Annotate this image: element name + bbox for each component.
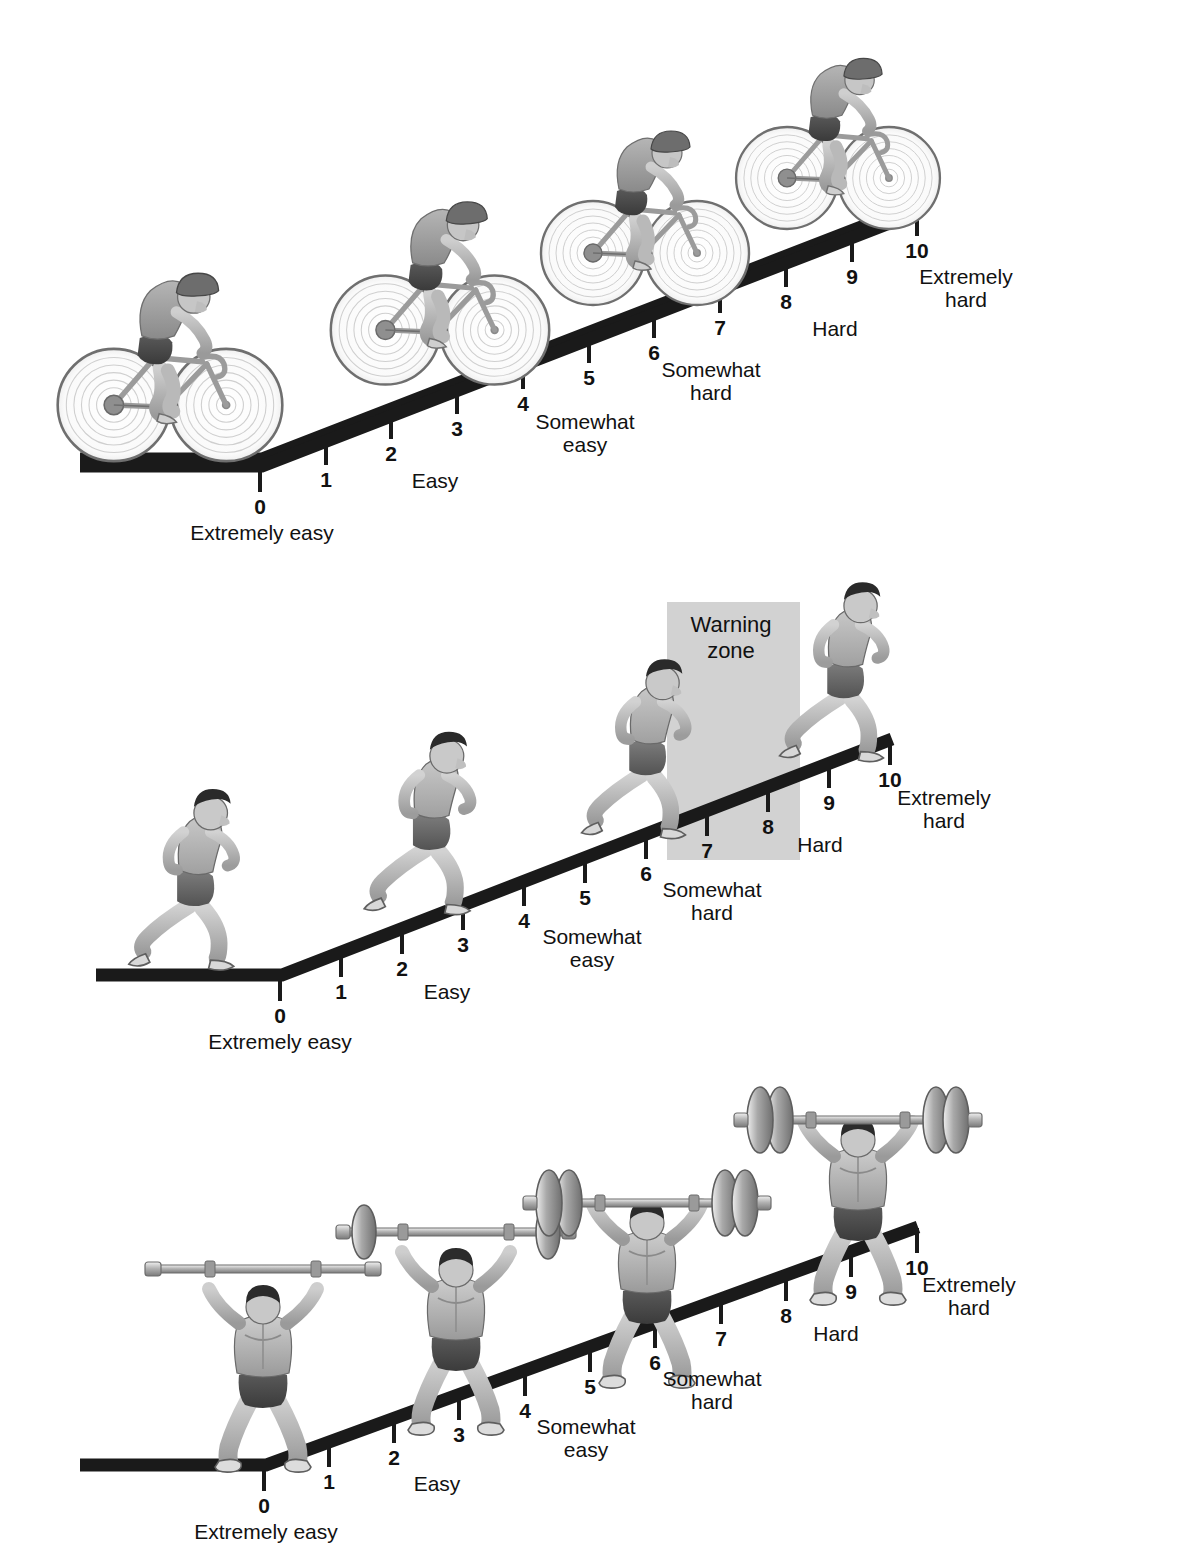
runner-figure-3 bbox=[581, 659, 685, 839]
anchor-somewhat-easy: Somewhat easy bbox=[542, 925, 641, 971]
tick-number-6: 6 bbox=[640, 863, 652, 884]
cyclist-figure-3 bbox=[541, 131, 749, 305]
tick-number-9: 9 bbox=[846, 266, 858, 287]
tick-number-8: 8 bbox=[780, 291, 792, 312]
anchor-somewhat-hard: Somewhat hard bbox=[662, 1367, 761, 1413]
tick-number-5: 5 bbox=[583, 367, 595, 388]
tick-number-6: 6 bbox=[648, 342, 660, 363]
tick-number-3: 3 bbox=[457, 934, 469, 955]
tick-number-0: 0 bbox=[258, 1495, 270, 1516]
tick-number-9: 9 bbox=[823, 792, 835, 813]
tick-number-0: 0 bbox=[254, 496, 266, 517]
anchor-extremely-hard: Extremely hard bbox=[897, 786, 990, 832]
anchor-easy: Easy bbox=[424, 980, 471, 1003]
tick-number-10: 10 bbox=[905, 240, 928, 261]
tick-number-7: 7 bbox=[715, 1328, 727, 1349]
tick-number-6: 6 bbox=[649, 1352, 661, 1373]
tick-number-8: 8 bbox=[762, 816, 774, 837]
anchor-extremely-easy: Extremely easy bbox=[194, 1520, 338, 1543]
tick-number-7: 7 bbox=[701, 840, 713, 861]
anchor-hard: Hard bbox=[812, 317, 858, 340]
tick-number-9: 9 bbox=[845, 1281, 857, 1302]
tick-number-4: 4 bbox=[518, 910, 530, 931]
scale-panel-resistance: 0 1 2 3 4 5 6 7 8 9 10 Extremely easy Ea… bbox=[0, 1080, 1193, 1540]
anchor-easy: Easy bbox=[412, 469, 459, 492]
cycling-scale-graphic bbox=[0, 0, 1193, 560]
anchor-hard: Hard bbox=[813, 1322, 859, 1345]
tick-number-1: 1 bbox=[320, 469, 332, 490]
tick-number-1: 1 bbox=[323, 1471, 335, 1492]
tick-number-2: 2 bbox=[396, 958, 408, 979]
tick-number-3: 3 bbox=[453, 1424, 465, 1445]
runner-figure-4 bbox=[779, 582, 883, 762]
cyclist-figure-4 bbox=[736, 58, 940, 229]
tick-number-8: 8 bbox=[780, 1305, 792, 1326]
tick-number-5: 5 bbox=[579, 887, 591, 908]
runner-figure-2 bbox=[364, 732, 470, 915]
tick-number-7: 7 bbox=[714, 317, 726, 338]
cyclist-figure-2 bbox=[331, 202, 549, 385]
anchor-somewhat-easy: Somewhat easy bbox=[536, 1415, 635, 1461]
anchor-extremely-easy: Extremely easy bbox=[208, 1030, 352, 1053]
scale-panel-running: Warning zone bbox=[0, 560, 1193, 1080]
scale-panel-cycling: 0 1 2 3 4 5 6 7 8 9 10 Extremely easy Ea… bbox=[0, 0, 1193, 560]
tick-number-0: 0 bbox=[274, 1005, 286, 1026]
tick-number-4: 4 bbox=[517, 393, 529, 414]
running-scale-graphic bbox=[0, 560, 1193, 1080]
tick-number-2: 2 bbox=[388, 1447, 400, 1468]
tick-number-4: 4 bbox=[519, 1400, 531, 1421]
anchor-somewhat-easy: Somewhat easy bbox=[535, 410, 634, 456]
tick-number-2: 2 bbox=[385, 443, 397, 464]
anchor-hard: Hard bbox=[797, 833, 843, 856]
anchor-somewhat-hard: Somewhat hard bbox=[662, 878, 761, 924]
anchor-extremely-easy: Extremely easy bbox=[190, 521, 334, 544]
anchor-easy: Easy bbox=[414, 1472, 461, 1495]
anchor-extremely-hard: Extremely hard bbox=[922, 1273, 1015, 1319]
tick-number-3: 3 bbox=[451, 418, 463, 439]
anchor-extremely-hard: Extremely hard bbox=[919, 265, 1012, 311]
tick-number-5: 5 bbox=[584, 1376, 596, 1397]
anchor-somewhat-hard: Somewhat hard bbox=[661, 358, 760, 404]
runner-figure-1 bbox=[129, 789, 234, 970]
cyclist-figure-1 bbox=[58, 273, 283, 461]
tick-number-1: 1 bbox=[335, 981, 347, 1002]
